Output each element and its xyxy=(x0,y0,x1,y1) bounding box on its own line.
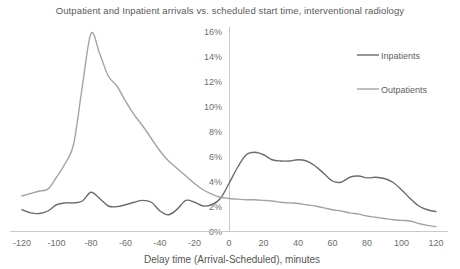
x-tick-label: -80 xyxy=(84,238,97,248)
x-tick-label: 20 xyxy=(258,238,268,248)
y-tick-label: 4% xyxy=(209,177,222,187)
y-tick-label: 8% xyxy=(209,127,222,137)
y-tick-label: 14% xyxy=(204,52,222,62)
x-tick-label: -60 xyxy=(119,238,132,248)
x-tick-label: 100 xyxy=(394,238,409,248)
chart-plot: 0%2%4%6%8%10%12%14%16% -120-100-80-60-40… xyxy=(0,0,460,269)
legend-label-inpatients[interactable]: Inpatients xyxy=(381,51,421,61)
chart-legend: InpatientsOutpatients xyxy=(357,51,428,95)
x-tick-label: 40 xyxy=(293,238,303,248)
x-axis-tick-labels: -120-100-80-60-40-20020406080100120 xyxy=(13,238,444,248)
y-tick-label: 12% xyxy=(204,77,222,87)
y-tick-label: 16% xyxy=(204,27,222,37)
x-tick-label: 0 xyxy=(226,238,231,248)
chart-container: Outpatient and Inpatient arrivals vs. sc… xyxy=(0,0,460,269)
y-axis-tick-labels: 0%2%4%6%8%10%12%14%16% xyxy=(204,27,222,237)
x-tick-label: 80 xyxy=(362,238,372,248)
x-tick-label: -40 xyxy=(153,238,166,248)
y-tick-label: 6% xyxy=(209,152,222,162)
x-tick-label: -20 xyxy=(188,238,201,248)
x-tick-label: -120 xyxy=(13,238,31,248)
legend-label-outpatients[interactable]: Outpatients xyxy=(381,85,428,95)
x-tick-label: 120 xyxy=(428,238,443,248)
x-tick-label: -100 xyxy=(47,238,65,248)
x-axis-title: Delay time (Arrival-Scheduled), minutes xyxy=(144,254,320,265)
x-tick-label: 60 xyxy=(327,238,337,248)
y-tick-label: 10% xyxy=(204,102,222,112)
